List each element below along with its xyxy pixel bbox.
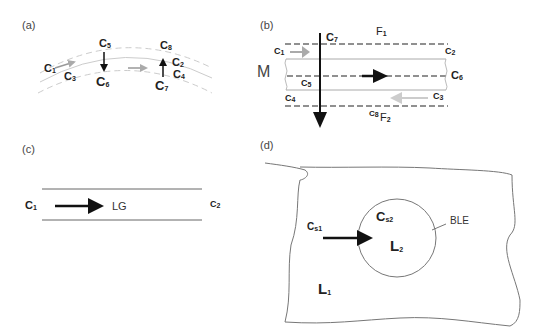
diagram-canvas	[0, 0, 546, 334]
label-d-l2: L2	[390, 238, 403, 253]
label-b-f2: F2	[380, 112, 391, 123]
arrow-c1-gray-icon	[302, 46, 310, 58]
panel-c-label: (c)	[22, 144, 35, 155]
label-c-c2: C2	[210, 200, 220, 209]
label-a-c6: C6	[96, 75, 109, 88]
label-b-m: M	[257, 64, 270, 80]
arrow-c3-gray-icon	[390, 92, 402, 104]
label-d-cs1: Cs1	[307, 222, 322, 232]
label-d-cs2: Cs2	[376, 210, 393, 223]
label-b-c4: C4	[285, 94, 295, 103]
arrow-cs1-icon	[357, 230, 373, 246]
label-d-ble: BLE	[450, 216, 469, 226]
arrow-c1-icon	[55, 62, 74, 68]
label-a-c3: C3	[64, 71, 76, 82]
label-b-c2: C2	[445, 47, 455, 56]
label-b-c6: C6	[451, 70, 463, 81]
label-a-c4: C4	[173, 69, 185, 80]
label-a-c1: C1	[44, 63, 56, 74]
label-a-c7: C7	[155, 79, 168, 92]
label-b-c8: C8	[369, 110, 379, 118]
label-d-l1: L1	[318, 281, 331, 296]
panel-d-label: (d)	[260, 140, 273, 151]
label-b-c5: C5	[301, 79, 311, 88]
label-c-lg: LG	[112, 201, 127, 212]
label-b-f1: F1	[376, 26, 387, 37]
label-a-c2: C2	[172, 57, 184, 68]
arrow-c6-icon	[373, 69, 388, 83]
label-b-c3: C3	[433, 92, 443, 101]
label-a-c5: C5	[99, 38, 111, 49]
label-c-c1: C1	[25, 200, 37, 211]
label-b-c7: C7	[326, 32, 338, 43]
panel-b-label: (b)	[260, 20, 273, 31]
panel-a-label: (a)	[22, 20, 35, 31]
arrow-lg-icon	[88, 198, 104, 214]
label-b-c1: C1	[274, 47, 284, 56]
label-a-c8: C8	[160, 40, 172, 51]
